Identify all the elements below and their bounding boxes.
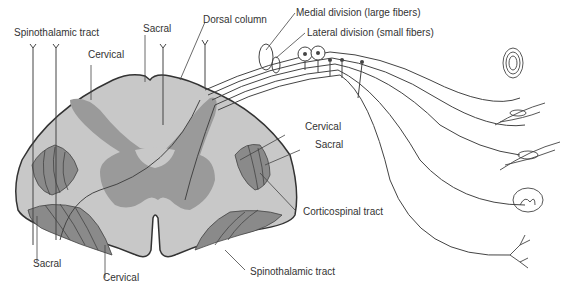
label-lateral-division: Lateral division (small fibers): [307, 27, 434, 38]
receptors: [495, 48, 560, 268]
label-spinothalamic-top: Spinothalamic tract: [14, 27, 99, 38]
label-sacral-top: Sacral: [143, 23, 171, 34]
label-spinothalamic-bottom: Spinothalamic tract: [250, 266, 335, 277]
golgi-tendon-organ-icon: [500, 142, 560, 170]
label-cervical-right: Cervical: [305, 121, 341, 132]
spinal-cord-diagram: Spinothalamic tract Cervical Sacral Dors…: [0, 0, 570, 293]
muscle-spindle-icon: [495, 103, 545, 125]
label-sacral-bottom: Sacral: [33, 258, 61, 269]
label-sacral-right: Sacral: [315, 139, 343, 150]
free-nerve-ending-icon: [510, 235, 530, 268]
label-dorsal-column: Dorsal column: [203, 14, 267, 25]
label-medial-division: Medial division (large fibers): [296, 7, 421, 18]
pacinian-corpuscle-icon: [503, 48, 523, 78]
label-corticospinal: Corticospinal tract: [303, 206, 383, 217]
label-cervical-top: Cervical: [88, 49, 124, 60]
ganglion-cells: [298, 46, 364, 98]
label-cervical-bottom: Cervical: [103, 272, 139, 283]
meissner-corpuscle-icon: [513, 188, 543, 212]
